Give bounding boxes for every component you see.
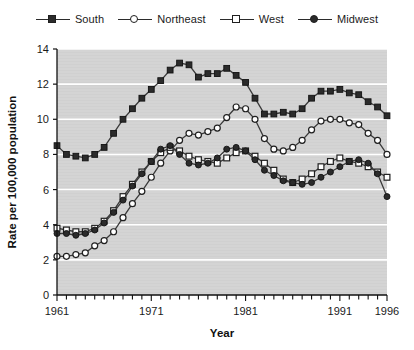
- x-tick-label: 1991: [328, 305, 352, 317]
- y-tick-label: 8: [43, 148, 49, 160]
- data-point: [177, 151, 183, 157]
- plot-container: 02468101214 19611971198119911996 Rate pe…: [0, 30, 414, 350]
- data-point: [148, 87, 154, 93]
- data-point: [82, 250, 88, 256]
- legend-item-northeast[interactable]: Northeast: [118, 13, 206, 25]
- data-point: [101, 145, 107, 151]
- data-point: [224, 65, 230, 71]
- data-point: [186, 62, 192, 68]
- data-point: [120, 215, 126, 221]
- data-point: [327, 116, 333, 122]
- data-point: [318, 88, 324, 94]
- data-point: [214, 125, 220, 131]
- data-point: [309, 95, 315, 101]
- data-point: [177, 60, 183, 66]
- y-tick-label: 0: [43, 289, 49, 301]
- data-point: [224, 155, 230, 161]
- legend-item-midwest[interactable]: Midwest: [298, 13, 378, 25]
- data-point: [73, 252, 79, 258]
- x-tick-label: 1996: [375, 305, 399, 317]
- data-point: [309, 127, 315, 133]
- data-point: [346, 158, 352, 164]
- data-point: [328, 159, 334, 165]
- data-point: [356, 92, 362, 98]
- data-point: [224, 115, 230, 121]
- data-point: [63, 253, 69, 259]
- data-point: [129, 183, 135, 189]
- data-point: [148, 158, 154, 164]
- x-axis-tick-labels: 19611971198119911996: [45, 305, 399, 317]
- data-point: [233, 144, 239, 150]
- legend-item-south[interactable]: South: [36, 13, 104, 25]
- data-point: [158, 160, 164, 166]
- data-point: [375, 104, 381, 110]
- data-point: [337, 155, 343, 161]
- data-point: [299, 181, 305, 187]
- data-point: [148, 174, 154, 180]
- data-point: [375, 171, 381, 177]
- data-point: [356, 157, 362, 163]
- data-point: [205, 71, 211, 77]
- data-point: [262, 160, 268, 166]
- data-point: [309, 171, 315, 177]
- data-point: [63, 231, 69, 237]
- data-point: [120, 116, 126, 122]
- data-point: [186, 153, 192, 159]
- plot-background: [57, 49, 387, 295]
- y-tick-label: 6: [43, 184, 49, 196]
- legend-item-west[interactable]: West: [220, 13, 284, 25]
- chart-legend: South Northeast West Midwest: [0, 8, 414, 30]
- data-point: [290, 180, 296, 186]
- data-point: [111, 130, 117, 136]
- legend-marker-circle-open-icon: [118, 14, 152, 25]
- data-point: [271, 173, 277, 179]
- data-point: [158, 78, 164, 84]
- data-point: [195, 132, 201, 138]
- data-point: [384, 174, 390, 180]
- data-point: [120, 197, 126, 203]
- data-point: [101, 220, 107, 226]
- data-point: [327, 169, 333, 175]
- data-point: [111, 209, 117, 215]
- data-point: [167, 143, 173, 149]
- y-tick-label: 4: [43, 219, 49, 231]
- data-point: [356, 122, 362, 128]
- chart-figure: South Northeast West Midwest: [0, 0, 414, 350]
- data-point: [177, 137, 183, 143]
- data-point: [233, 104, 239, 110]
- data-point: [167, 67, 173, 73]
- data-point: [73, 153, 79, 159]
- data-point: [64, 152, 70, 158]
- data-point: [328, 88, 334, 94]
- data-point: [271, 111, 277, 117]
- data-point: [214, 155, 220, 161]
- data-point: [384, 151, 390, 157]
- data-point: [309, 180, 315, 186]
- data-point: [205, 129, 211, 135]
- data-point: [346, 90, 352, 96]
- legend-marker-circle-filled-icon: [298, 14, 332, 25]
- x-tick-label: 1971: [139, 305, 163, 317]
- data-point: [337, 116, 343, 122]
- legend-label-south: South: [73, 13, 104, 25]
- data-point: [337, 164, 343, 170]
- legend-label-west: West: [257, 13, 284, 25]
- data-point: [365, 99, 371, 105]
- y-tick-label: 10: [37, 113, 49, 125]
- data-point: [262, 111, 268, 117]
- data-point: [139, 188, 145, 194]
- data-point: [261, 167, 267, 173]
- data-point: [158, 146, 164, 152]
- data-point: [375, 137, 381, 143]
- data-point: [365, 130, 371, 136]
- data-point: [280, 178, 286, 184]
- y-axis-title: Rate per 100,000 population: [6, 96, 18, 249]
- data-point: [252, 95, 258, 101]
- data-point: [365, 160, 371, 166]
- y-axis-tick-labels: 02468101214: [37, 43, 49, 301]
- data-point: [82, 231, 88, 237]
- data-point: [280, 109, 286, 115]
- y-tick-label: 12: [37, 78, 49, 90]
- data-point: [92, 243, 98, 249]
- data-point: [318, 174, 324, 180]
